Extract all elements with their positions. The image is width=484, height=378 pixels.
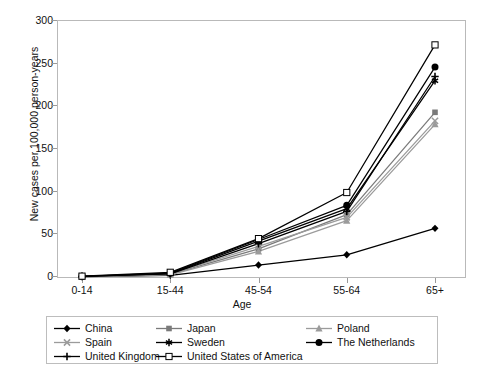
y-tick-label: 300 <box>0 20 53 32</box>
legend-marker-filled-triangle <box>305 322 333 335</box>
data-point-open-square <box>255 236 261 242</box>
x-tick-mark <box>259 278 260 283</box>
data-point-filled-diamond <box>64 324 71 331</box>
data-point-open-square <box>79 273 85 279</box>
legend-marker-cross-x <box>53 336 81 349</box>
legend-marker-asterisk <box>155 336 183 349</box>
x-tick-label: 65+ <box>426 284 444 296</box>
legend-row: SpainSwedenThe Netherlands <box>53 335 431 349</box>
x-tick-label: 0-14 <box>71 284 92 296</box>
legend-label: Spain <box>81 336 112 348</box>
chart-legend: ChinaJapanPolandSpainSwedenThe Netherlan… <box>46 316 438 364</box>
chart-figure: New cases per 100,000 person-years 05010… <box>0 0 484 378</box>
data-point-plus <box>63 352 70 359</box>
data-point-filled-circle <box>316 339 323 346</box>
plot-area <box>57 20 466 278</box>
data-point-open-square <box>432 42 438 48</box>
legend-item-sweden[interactable]: Sweden <box>155 335 305 349</box>
legend-item-spain[interactable]: Spain <box>53 335 155 349</box>
legend-label: United States of America <box>183 350 303 362</box>
y-tick-label: 50 <box>0 233 53 245</box>
y-tick-label: 250 <box>0 63 53 75</box>
legend-label: The Netherlands <box>333 336 415 348</box>
legend-label: Japan <box>183 322 216 334</box>
y-tick-label: 150 <box>0 148 53 160</box>
data-point-open-square <box>166 353 172 359</box>
y-tick-label: 0 <box>0 276 53 288</box>
x-tick-label: 45-54 <box>245 284 272 296</box>
legend-item-japan[interactable]: Japan <box>155 321 305 335</box>
series-lines <box>58 21 465 277</box>
data-point-open-square <box>344 189 350 195</box>
x-tick-label: 55-64 <box>333 284 360 296</box>
data-point-open-square <box>167 269 173 275</box>
data-point-filled-diamond <box>255 261 262 268</box>
y-tick-label: 100 <box>0 191 53 203</box>
legend-marker-plus <box>53 350 81 363</box>
x-tick-label: 15-44 <box>157 284 184 296</box>
legend-marker-filled-diamond <box>53 322 81 335</box>
y-axis-title: New cases per 100,000 person-years <box>28 14 40 254</box>
x-tick-mark <box>435 278 436 283</box>
legend-label: Sweden <box>183 336 225 348</box>
legend-item-poland[interactable]: Poland <box>305 321 370 335</box>
legend-row: United KingdomUnited States of America <box>53 349 431 363</box>
legend-item-united-states-of-america[interactable]: United States of America <box>155 349 305 363</box>
data-point-filled-diamond <box>343 251 350 258</box>
legend-marker-filled-square <box>155 322 183 335</box>
legend-label: Poland <box>333 322 370 334</box>
legend-marker-open-square <box>155 350 183 363</box>
data-point-filled-diamond <box>432 225 439 232</box>
x-axis-title: Age <box>0 298 484 310</box>
legend-item-united-kingdom[interactable]: United Kingdom <box>53 349 155 363</box>
legend-marker-filled-circle <box>305 336 333 349</box>
legend-label: China <box>81 322 112 334</box>
legend-item-the-netherlands[interactable]: The Netherlands <box>305 335 415 349</box>
y-tick-label: 200 <box>0 105 53 117</box>
legend-item-china[interactable]: China <box>53 321 155 335</box>
data-point-filled-square <box>432 110 438 116</box>
data-point-filled-square <box>166 325 172 331</box>
x-tick-mark <box>347 278 348 283</box>
legend-label: United Kingdom <box>81 350 160 362</box>
legend-row: ChinaJapanPoland <box>53 321 431 335</box>
data-point-filled-circle <box>432 64 439 71</box>
